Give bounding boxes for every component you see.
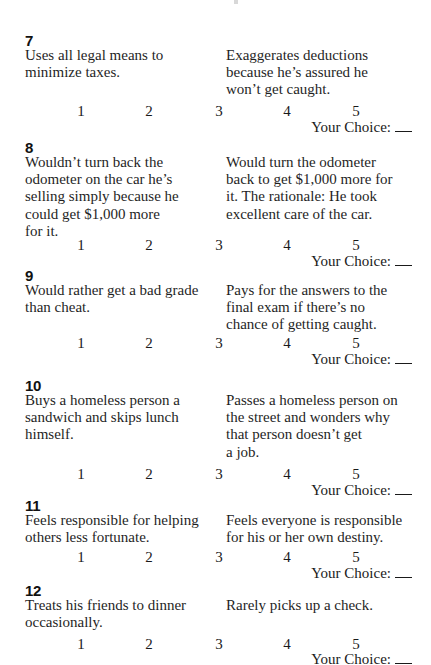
scale-option-2[interactable]: 2 xyxy=(139,636,159,652)
scale-option-4[interactable]: 4 xyxy=(277,103,297,119)
your-choice-blank[interactable] xyxy=(395,264,412,266)
left-statement: Treats his friends to dinner occasionall… xyxy=(25,597,205,631)
item-number: 10 xyxy=(25,379,41,393)
left-statement: Feels responsible for helping others les… xyxy=(25,512,205,546)
statement-line: odometer on the car he’s xyxy=(25,171,205,188)
your-choice-label: Your Choice: xyxy=(311,119,391,135)
your-choice-blank[interactable] xyxy=(395,576,412,578)
statement-line: Rarely picks up a check. xyxy=(226,597,416,614)
scale-option-1[interactable]: 1 xyxy=(71,237,91,253)
scale-option-3[interactable]: 3 xyxy=(209,237,229,253)
item-number: 7 xyxy=(25,34,33,48)
rating-scale: 1 2 3 4 5 xyxy=(0,103,431,119)
right-statement: Rarely picks up a check. xyxy=(226,597,416,614)
scale-option-5[interactable]: 5 xyxy=(346,549,366,565)
your-choice-blank[interactable] xyxy=(395,493,412,495)
scale-option-2[interactable]: 2 xyxy=(139,466,159,482)
your-choice-blank[interactable] xyxy=(395,362,412,364)
scale-option-1[interactable]: 1 xyxy=(71,103,91,119)
your-choice: Your Choice: xyxy=(311,482,412,498)
rating-scale: 1 2 3 4 5 xyxy=(0,237,431,253)
statement-line: others less fortunate. xyxy=(25,529,205,546)
statement-line: for his or her own destiny. xyxy=(226,529,416,546)
right-statement: Passes a homeless person on the street a… xyxy=(226,392,416,461)
statement-line: that person doesn’t get xyxy=(226,426,416,443)
statement-line: a job. xyxy=(226,444,416,461)
your-choice: Your Choice: xyxy=(311,565,412,581)
statement-line: Treats his friends to dinner xyxy=(25,597,205,614)
statement-line: selling simply because he xyxy=(25,188,205,205)
statement-line: Uses all legal means to xyxy=(25,47,205,64)
item-number: 9 xyxy=(25,269,33,283)
statement-line: because he’s assured he xyxy=(226,64,416,81)
your-choice-blank[interactable] xyxy=(395,662,412,664)
your-choice: Your Choice: xyxy=(311,351,412,367)
statement-line: Pays for the answers to the xyxy=(226,282,416,299)
item-number: 8 xyxy=(25,141,33,155)
scale-option-1[interactable]: 1 xyxy=(71,466,91,482)
scale-option-1[interactable]: 1 xyxy=(71,549,91,565)
your-choice: Your Choice: xyxy=(311,651,412,665)
scale-option-4[interactable]: 4 xyxy=(277,549,297,565)
scale-option-2[interactable]: 2 xyxy=(139,103,159,119)
statement-line: Feels responsible for helping xyxy=(25,512,205,529)
page-edge-mark xyxy=(234,0,238,4)
scale-option-5[interactable]: 5 xyxy=(346,636,366,652)
right-statement: Feels everyone is responsible for his or… xyxy=(226,512,416,546)
scale-option-4[interactable]: 4 xyxy=(277,466,297,482)
scale-option-1[interactable]: 1 xyxy=(71,335,91,351)
your-choice-label: Your Choice: xyxy=(311,253,391,269)
scale-option-2[interactable]: 2 xyxy=(139,549,159,565)
scale-option-4[interactable]: 4 xyxy=(277,335,297,351)
scale-option-5[interactable]: 5 xyxy=(346,466,366,482)
scale-option-3[interactable]: 3 xyxy=(209,335,229,351)
rating-scale: 1 2 3 4 5 xyxy=(0,549,431,565)
scale-option-2[interactable]: 2 xyxy=(139,237,159,253)
scale-option-3[interactable]: 3 xyxy=(209,466,229,482)
left-statement: Would rather get a bad grade than cheat. xyxy=(25,282,205,316)
statement-line: minimize taxes. xyxy=(25,64,205,81)
your-choice-blank[interactable] xyxy=(395,130,412,132)
scale-option-3[interactable]: 3 xyxy=(209,103,229,119)
your-choice: Your Choice: xyxy=(311,119,412,135)
statement-line: final exam if there’s no xyxy=(226,299,416,316)
statement-line: Would turn the odometer xyxy=(226,154,416,171)
statement-line: won’t get caught. xyxy=(226,81,416,98)
scale-option-5[interactable]: 5 xyxy=(346,103,366,119)
scale-option-2[interactable]: 2 xyxy=(139,335,159,351)
your-choice-label: Your Choice: xyxy=(311,351,391,367)
right-statement: Exaggerates deductions because he’s assu… xyxy=(226,47,416,99)
scale-option-4[interactable]: 4 xyxy=(277,237,297,253)
right-statement: Pays for the answers to the final exam i… xyxy=(226,282,416,334)
your-choice: Your Choice: xyxy=(311,253,412,269)
statement-line: the street and wonders why xyxy=(226,409,416,426)
statement-line: back to get $1,000 more for xyxy=(226,171,416,188)
statement-line: than cheat. xyxy=(25,299,205,316)
your-choice-label: Your Choice: xyxy=(311,565,391,581)
item-number: 12 xyxy=(25,584,41,598)
statement-line: Wouldn’t turn back the xyxy=(25,154,205,171)
item-number: 11 xyxy=(25,499,40,513)
scale-option-1[interactable]: 1 xyxy=(71,636,91,652)
statement-line: himself. xyxy=(25,426,205,443)
right-statement: Would turn the odometer back to get $1,0… xyxy=(226,154,416,223)
statement-line: excellent care of the car. xyxy=(226,206,416,223)
your-choice-label: Your Choice: xyxy=(311,482,391,498)
scale-option-5[interactable]: 5 xyxy=(346,237,366,253)
scale-option-3[interactable]: 3 xyxy=(209,549,229,565)
your-choice-label: Your Choice: xyxy=(311,651,391,665)
scale-option-4[interactable]: 4 xyxy=(277,636,297,652)
statement-line: sandwich and skips lunch xyxy=(25,409,205,426)
statement-line: Would rather get a bad grade xyxy=(25,282,205,299)
statement-line: Feels everyone is responsible xyxy=(226,512,416,529)
statement-line: it. The rationale: He took xyxy=(226,188,416,205)
left-statement: Uses all legal means to minimize taxes. xyxy=(25,47,205,81)
statement-line: Passes a homeless person on xyxy=(226,392,416,409)
scale-option-5[interactable]: 5 xyxy=(346,335,366,351)
left-statement: Buys a homeless person a sandwich and sk… xyxy=(25,392,205,444)
statement-line: Exaggerates deductions xyxy=(226,47,416,64)
rating-scale: 1 2 3 4 5 xyxy=(0,466,431,482)
statement-line: chance of getting caught. xyxy=(226,316,416,333)
scale-option-3[interactable]: 3 xyxy=(209,636,229,652)
rating-scale: 1 2 3 4 5 xyxy=(0,636,431,652)
